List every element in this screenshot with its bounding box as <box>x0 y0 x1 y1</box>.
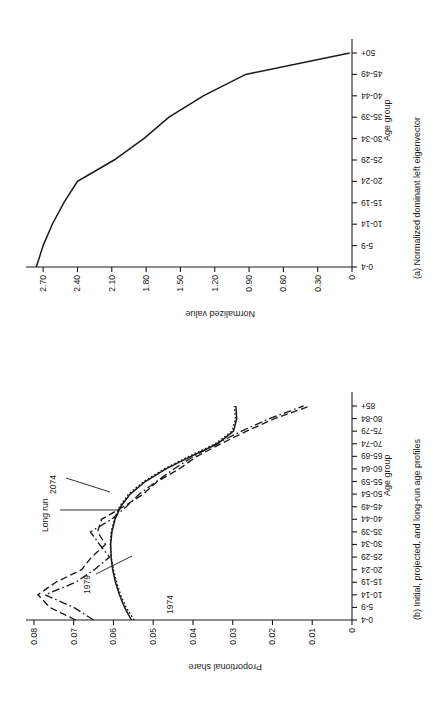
ytick-label: 0.30 <box>313 275 323 292</box>
xtick-label: 35-39 <box>361 112 383 122</box>
panel-b-caption: (b) Initial, projected, and long-run age… <box>412 439 422 620</box>
xtick-label: 20-24 <box>361 176 383 186</box>
xtick-label: 0-4 <box>361 262 373 272</box>
ytick-label: 0 <box>347 628 357 633</box>
panel-b-xaxis-title: Age group <box>382 454 392 496</box>
ytick-label: 0.04 <box>188 628 198 645</box>
annotation-leader-line <box>96 556 132 574</box>
xtick-label: 35-39 <box>361 527 383 537</box>
ytick-label: 0.05 <box>148 628 158 645</box>
panel-a-caption: (a) Normalized dominant left eigenvector <box>412 117 422 279</box>
series-line-normalized-dominant-left-eigenvector <box>36 53 349 267</box>
xtick-label: 15-19 <box>361 577 383 587</box>
ytick-label: 2.40 <box>72 275 82 292</box>
ytick-label: 0.01 <box>307 628 317 645</box>
xtick-label: 45-49 <box>361 69 383 79</box>
xtick-label: 30-34 <box>361 539 383 549</box>
xtick-label: 40-44 <box>361 514 383 524</box>
panel-b-age-profiles: 00.010.020.030.040.050.060.070.080-45-91… <box>0 353 433 706</box>
series-line-2074 <box>110 406 235 620</box>
series-label-long-run: Long run <box>40 498 50 532</box>
ytick-label: 1.80 <box>141 275 151 292</box>
series-label-1974: 1974 <box>165 595 175 614</box>
ytick-label: 1.50 <box>175 275 185 292</box>
xtick-label: 10-14 <box>361 590 383 600</box>
xtick-label: 60-64 <box>361 464 383 474</box>
panel-b-plot-area: 00.010.020.030.040.050.060.070.080-45-91… <box>0 353 433 706</box>
xtick-label: 85+ <box>361 401 375 411</box>
ytick-label: 0.06 <box>108 628 118 645</box>
xtick-label: 40-44 <box>361 91 383 101</box>
panel-b-yaxis-title: Proportional share <box>188 662 262 672</box>
panel-a-eigenvector: 00.300.600.901.201.501.802.102.402.700-4… <box>0 0 433 353</box>
ytick-label: 0.07 <box>69 628 79 645</box>
xtick-label: 10-14 <box>361 219 383 229</box>
figure-container: 00.010.020.030.040.050.060.070.080-45-91… <box>0 0 433 706</box>
ytick-label: 2.70 <box>38 275 48 292</box>
panel-a-xaxis-title: Age group <box>382 99 392 141</box>
xtick-label: 70-74 <box>361 439 383 449</box>
xtick-label: 5-9 <box>361 602 373 612</box>
ytick-label: 0.60 <box>278 275 288 292</box>
xtick-label: 50-54 <box>361 489 383 499</box>
ytick-label: 0.03 <box>228 628 238 645</box>
xtick-label: 25-29 <box>361 155 383 165</box>
xtick-label: 30-34 <box>361 134 383 144</box>
ytick-label: 0.02 <box>267 628 277 645</box>
xtick-label: 75-79 <box>361 426 383 436</box>
series-line-long-run <box>111 406 237 620</box>
panel-a-plot-area: 00.300.600.901.201.501.802.102.402.700-4… <box>0 0 433 353</box>
series-label-1979: 1979 <box>82 575 92 594</box>
ytick-label: 0 <box>347 275 357 280</box>
series-line-1974 <box>38 406 310 620</box>
xtick-label: 65-69 <box>361 451 383 461</box>
ytick-label: 2.10 <box>107 275 117 292</box>
xtick-label: 0-4 <box>361 615 373 625</box>
xtick-label: 80-84 <box>361 414 383 424</box>
xtick-label: 55-59 <box>361 477 383 487</box>
xtick-label: 5-9 <box>361 241 373 251</box>
ytick-label: 0.90 <box>244 275 254 292</box>
xtick-label: 45-49 <box>361 502 383 512</box>
xtick-label: 20-24 <box>361 565 383 575</box>
xtick-label: 50+ <box>361 48 375 58</box>
series-label-2074: 2074 <box>48 475 58 494</box>
xtick-label: 15-19 <box>361 198 383 208</box>
ytick-label: 1.20 <box>210 275 220 292</box>
ytick-label: 0.08 <box>29 628 39 645</box>
panel-a-yaxis-title: Normalized value <box>185 309 255 319</box>
annotation-leader-line <box>66 478 110 492</box>
xtick-label: 25-29 <box>361 552 383 562</box>
